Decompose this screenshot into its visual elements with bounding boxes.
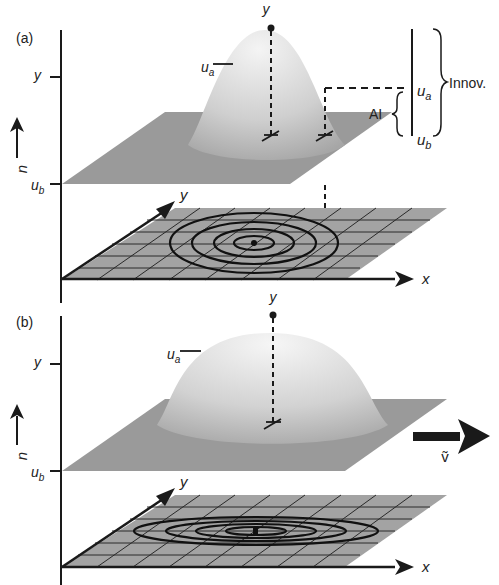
obs-label-b: y <box>269 289 278 305</box>
wind-arrow <box>413 432 460 441</box>
data-assimilation-diagram: (a) y ub u ua y ua ub AI <box>0 0 499 585</box>
u-axis-label-b: u <box>16 452 33 461</box>
wind-arrow-head-icon <box>458 419 490 454</box>
ground-grid-b <box>62 495 447 567</box>
obs-label: y <box>262 1 271 17</box>
ua-label-b: ua <box>167 346 181 365</box>
u-axis-label: u <box>16 165 33 174</box>
ub-tick-label-b: ub <box>31 464 45 483</box>
right-ua-label: ua <box>417 82 431 102</box>
y-tick-label: y <box>33 67 42 83</box>
analysis-hump <box>188 30 345 160</box>
ai-brace <box>392 92 403 136</box>
panel-a: (a) y ub u ua y ua ub AI <box>10 1 486 303</box>
innov-brace <box>433 29 447 136</box>
x-axis-label: x <box>421 270 430 287</box>
wind-label: ṽ <box>441 448 449 465</box>
panel-b-label: (b) <box>16 314 33 330</box>
ai-label: AI <box>369 106 382 122</box>
x-arrow-icon-b <box>395 559 414 575</box>
obs-point <box>268 25 275 32</box>
panel-a-label: (a) <box>16 30 33 46</box>
ground-grid-a <box>62 208 447 280</box>
obs-point-b <box>270 312 277 319</box>
y-axis-label-b: y <box>179 473 189 490</box>
ua-label: ua <box>201 59 215 78</box>
innov-label: Innov. <box>449 75 486 91</box>
x-arrow-icon <box>395 271 414 287</box>
panel-b: (b) y ub u ua y ṽ <box>10 289 490 585</box>
y-tick-label-b: y <box>33 354 42 370</box>
right-ub-label: ub <box>417 131 431 151</box>
ub-tick-label: ub <box>31 177 45 196</box>
x-axis-label-b: x <box>421 558 430 575</box>
y-axis-label: y <box>179 186 189 203</box>
